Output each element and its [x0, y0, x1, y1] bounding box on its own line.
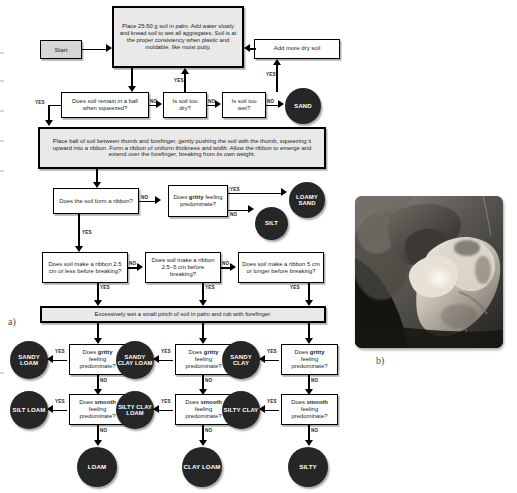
arrowhead: [153, 355, 159, 363]
edge-label-no: NO: [311, 428, 318, 433]
connector-qribbonform-yes: [78, 214, 80, 248]
q-gritty-word: gritty: [204, 349, 219, 355]
result-loam-label: LOAM: [88, 464, 107, 471]
node-start: Start: [40, 40, 82, 59]
arrowhead: [94, 440, 102, 446]
edge-label-no: NO: [230, 212, 237, 217]
q-smooth-word: smooth: [307, 399, 328, 405]
arrowhead: [155, 196, 161, 204]
node-q-ribbon-form: Does the soil form a ribbon?: [53, 188, 139, 214]
node-ribbon-instruction-text: Place ball of soil between thumb and for…: [48, 138, 316, 159]
node-q-ribbon-form-text: Does the soil form a ribbon?: [59, 198, 133, 205]
edge-label-no: NO: [100, 428, 107, 433]
edge-label-no: NO: [141, 195, 148, 200]
result-silty-clay-loam: SILTY CLAY LOAM: [116, 391, 154, 429]
edge-label-yes: YES: [267, 349, 277, 354]
q-smooth-prefix: Does: [79, 399, 94, 405]
result-silty: SILTY: [288, 447, 328, 487]
result-silt-loam-label: SILT LOAM: [13, 407, 46, 413]
connector-start-to-wet: [82, 49, 108, 51]
q-gritty-word: gritty: [310, 349, 325, 355]
arrowhead: [273, 59, 281, 65]
node-q-too-wet: Is soil too wet?: [222, 92, 266, 118]
edge-label-yes: YES: [267, 399, 277, 404]
node-q-too-wet-text: Is soil too wet?: [226, 98, 262, 112]
connector-wet-to-qball: [131, 68, 133, 88]
edge-label-no: NO: [311, 378, 318, 383]
q-gritty-word: gritty: [98, 349, 113, 355]
result-sandy-loam-label: SANDY LOAM: [10, 354, 48, 367]
node-q-ribbon-25-to-5-text: Does soil make a ribbon 2.5–5 cm before …: [149, 257, 217, 278]
arrowhead: [45, 120, 53, 126]
arrowhead: [137, 263, 143, 271]
edge-label-no: NO: [205, 378, 212, 383]
result-sand: SAND: [285, 88, 321, 124]
node-excessively-wet-text: Excessively wet a small pinch of soil in…: [95, 311, 272, 318]
q-smooth-suffix: feeling predominate?: [79, 406, 115, 419]
page-edge-tick: [0, 140, 4, 142]
page-edge-tick: [0, 80, 4, 82]
edge-label-yes: YES: [161, 349, 171, 354]
result-sandy-loam: SANDY LOAM: [10, 341, 48, 379]
node-wet-soil-instruction: Place 25-50 g soil in palm. Add water sl…: [112, 6, 244, 68]
node-q-ball-when-squeezed: Does soil remain in a ball when squeezed…: [61, 92, 149, 118]
arrowhead: [259, 405, 265, 413]
edge-label-no: NO: [205, 428, 212, 433]
result-loamy-sand: LOAMY SAND: [289, 182, 325, 218]
page-edge-tick: [0, 170, 4, 172]
soil-ribbon-photo: [355, 196, 503, 348]
result-sandy-clay: SANDY CLAY: [222, 341, 260, 379]
connector-s3-yes: [265, 410, 279, 412]
edge-label-no: NO: [267, 99, 274, 104]
edge-label-yes: YES: [55, 399, 65, 404]
result-loam: LOAM: [77, 447, 117, 487]
result-silty-clay: SILTY CLAY: [222, 391, 260, 429]
q-gritty-suffix: feeling predominate?: [291, 356, 327, 369]
connector-gritty-top-yes: [228, 193, 282, 195]
node-q-ribbon-5-or-longer: Does soil make a ribbon 5 cm or longer b…: [238, 252, 324, 283]
q-gritty-prefix: Does: [294, 349, 309, 355]
arrowhead: [47, 405, 53, 413]
q-gritty-suffix: feeling predominate?: [79, 356, 115, 369]
edge-label-no: NO: [129, 261, 136, 266]
page-edge-tick: [0, 52, 4, 54]
node-wet-soil-text: Place 25-50 g soil in palm. Add water sl…: [117, 23, 239, 50]
arrowhead: [259, 355, 265, 363]
edge-label-yes: YES: [266, 72, 276, 77]
node-add-more-dry-soil: Add more dry soil: [254, 39, 340, 59]
connector-g1-yes: [53, 360, 67, 362]
page-edge-tick: [0, 110, 4, 112]
arrowhead: [199, 440, 207, 446]
result-clay-loam: CLAY LOAM: [182, 447, 222, 487]
connector-qribbonform-no: [139, 201, 156, 203]
result-sandy-clay-loam-label: SANDY CLAY LOAM: [116, 354, 154, 366]
arrowhead: [244, 44, 250, 52]
arrowhead: [281, 188, 287, 196]
result-sandy-clay-loam: SANDY CLAY LOAM: [116, 341, 154, 379]
edge-label-no: NO: [208, 99, 215, 104]
panel-b-label: b): [376, 355, 384, 366]
arrowhead: [248, 205, 254, 213]
node-q-gritty-col3: Does gritty feeling predominate?: [281, 344, 338, 375]
result-silt: SILT: [255, 207, 288, 240]
node-q-too-dry-text: Is soil too dry?: [167, 98, 203, 112]
node-q-gritty-col3-text: Does gritty feeling predominate?: [285, 349, 334, 370]
connector-s2-yes: [159, 410, 173, 412]
q-smooth-suffix: feeling predominate?: [185, 406, 221, 419]
result-loamy-sand-label: LOAMY SAND: [289, 194, 325, 206]
arrowhead: [305, 440, 313, 446]
arrowhead: [181, 68, 189, 74]
connector-toowet-yes: [276, 65, 278, 92]
node-q-gritty-top-text: Does gritty feeling predominate?: [172, 194, 224, 208]
connector-g3-yes: [265, 360, 279, 362]
edge-label-yes: YES: [174, 78, 184, 83]
edge-label-yes: YES: [290, 285, 300, 290]
result-silt-loam: SILT LOAM: [10, 391, 48, 429]
arrowhead: [47, 355, 53, 363]
result-silty-clay-label: SILTY CLAY: [224, 407, 259, 413]
edge-label-yes: YES: [35, 100, 45, 105]
edge-label-no: NO: [150, 99, 157, 104]
node-q-gritty-col1-text: Does gritty feeling predominate?: [73, 349, 122, 370]
edge-label-yes: YES: [205, 285, 215, 290]
q-gritty-suffix: feeling predominate?: [185, 356, 221, 369]
